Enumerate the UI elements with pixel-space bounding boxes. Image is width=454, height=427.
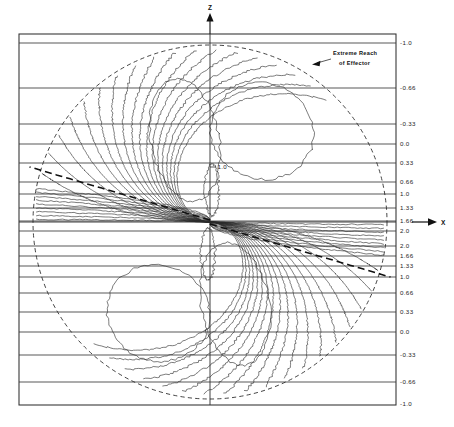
seam-segment [30,167,211,220]
contour-line [210,222,281,391]
tick-label: 1.33 [400,204,414,211]
contour-line [177,93,326,222]
tick-label: 2.0 [400,242,410,249]
x-axis-arrow [412,218,437,226]
tick-label: 1.0 [400,190,410,197]
tick-label: 0.33 [400,159,414,166]
contour-line [210,222,336,342]
tick-label: -0.33 [400,351,416,358]
tick-label: 0.0 [400,328,410,335]
contour-line [94,222,243,351]
tick-label: 1.66 [400,217,414,224]
contour-line [182,222,262,392]
contour-line [170,74,295,222]
annotation-line-1: Extreme Reach [333,50,378,56]
annotation-arrow-icon [312,61,321,66]
tick-label: -1.0 [400,39,412,46]
contour-figure: Z X -1.0-0.66-0.330.00.330.661.01.331.66… [0,0,454,427]
tick-label: 1.33 [400,262,414,269]
tick-label: -0.66 [400,378,416,385]
contour-line [158,53,238,223]
z-axis-arrow [206,13,213,34]
x-axis-label: X [441,219,446,226]
contour-line [204,164,221,218]
contour-line [152,50,216,222]
seam-segment [210,224,391,277]
tick-label: -1.0 [400,400,412,407]
contour-line [125,222,250,370]
contour-line [210,222,289,387]
tick-label: 0.0 [400,140,410,147]
tick-label: -0.33 [400,120,416,127]
annotation-line-2: of Effector [339,60,371,66]
tick-label: -0.66 [400,84,416,91]
tick-label: 2.0 [400,227,410,234]
tick-label: 0.66 [400,289,414,296]
contour-line [131,57,210,222]
z-axis-label: Z [208,4,212,11]
contour-line [106,264,211,362]
inline-contour-label: 1.0 [218,163,228,170]
inline-contour-label-group: 1.0 [210,163,227,170]
contour-line [204,222,268,394]
tick-label: 0.33 [400,308,414,315]
tick-label: 1.0 [400,273,410,280]
right-tick-labels: -1.0-0.66-0.330.00.330.661.01.331.662.02… [400,39,416,407]
tick-label: 0.66 [400,178,414,185]
extreme-reach-annotation: Extreme Reach of Effector [312,50,378,66]
contour-line [84,102,210,222]
tick-label: 1.66 [400,252,414,259]
contour-line [139,53,210,222]
